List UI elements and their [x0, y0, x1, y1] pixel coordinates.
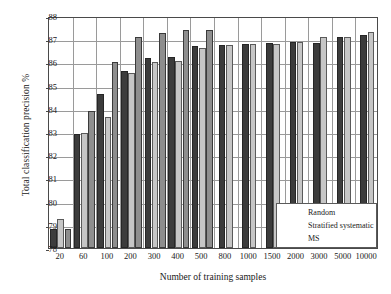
bar-random-60 [74, 134, 81, 248]
x-axis-title: Number of training samples [48, 272, 378, 282]
x-tick-label: 1500 [260, 252, 284, 261]
bar-stratified-systematic-20 [57, 219, 64, 248]
bar-random-400 [168, 57, 175, 248]
bar-stratified-systematic-400 [175, 61, 182, 248]
legend-label-random: Random [308, 209, 335, 217]
legend-item-ms[interactable]: MS [279, 232, 374, 245]
x-tick-label: 10000 [354, 252, 378, 261]
bar-ms-400 [183, 30, 190, 248]
series-2-swatch [279, 234, 305, 243]
y-axis-title: Total classification precision % [21, 35, 31, 235]
gridline-vertical [214, 18, 215, 248]
bar-ms-60 [88, 111, 95, 248]
x-tick-label: 20 [48, 252, 72, 261]
bar-random-800 [219, 45, 226, 248]
legend-label-stratified-systematic: Stratified systematic [308, 222, 374, 230]
gridline-horizontal [49, 88, 377, 89]
x-tick-label: 5000 [331, 252, 355, 261]
y-tick-label: 88 [31, 13, 57, 22]
bar-random-1500 [266, 43, 273, 248]
x-tick-label: 300 [142, 252, 166, 261]
bar-stratified-systematic-1000 [250, 44, 257, 248]
bar-ms-200 [135, 37, 142, 248]
x-tick-label: 200 [119, 252, 143, 261]
chart-legend: Random Stratified systematic MS [276, 203, 377, 248]
bar-stratified-systematic-300 [152, 62, 159, 248]
bar-random-200 [121, 71, 128, 248]
bar-stratified-systematic-800 [226, 45, 233, 248]
chart-figure: Total classification precision % Number … [0, 0, 391, 294]
y-tick-label: 83 [31, 129, 57, 138]
y-tick-label: 80 [31, 199, 57, 208]
gridline-horizontal [49, 41, 377, 42]
legend-item-random[interactable]: Random [279, 206, 374, 219]
legend-label-ms: MS [308, 235, 320, 243]
x-tick-label: 500 [189, 252, 213, 261]
bar-stratified-systematic-100 [105, 117, 112, 248]
y-tick-label: 82 [31, 152, 57, 161]
bar-random-300 [145, 58, 152, 248]
x-tick-label: 100 [95, 252, 119, 261]
x-tick-label: 400 [166, 252, 190, 261]
y-tick-label: 84 [31, 106, 57, 115]
series-1-swatch [279, 221, 305, 230]
bar-ms-500 [206, 30, 213, 248]
gridline-vertical [261, 18, 262, 248]
y-tick-label: 86 [31, 59, 57, 68]
bar-ms-100 [112, 62, 119, 248]
x-tick-label: 1000 [237, 252, 261, 261]
y-tick-label: 85 [31, 83, 57, 92]
bar-ms-20 [65, 229, 72, 248]
bar-stratified-systematic-200 [128, 73, 135, 248]
legend-item-stratified-systematic[interactable]: Stratified systematic [279, 219, 374, 232]
bar-random-500 [192, 46, 199, 248]
bar-ms-300 [159, 33, 166, 248]
series-0-swatch [279, 208, 305, 217]
bar-random-100 [97, 94, 104, 248]
y-tick-label: 87 [31, 36, 57, 45]
x-tick-label: 3000 [307, 252, 331, 261]
x-tick-label: 60 [72, 252, 96, 261]
y-tick-label: 79 [31, 222, 57, 231]
x-tick-label: 2000 [284, 252, 308, 261]
x-tick-label: 800 [213, 252, 237, 261]
y-tick-label: 81 [31, 175, 57, 184]
gridline-horizontal [49, 64, 377, 65]
bar-stratified-systematic-500 [199, 48, 206, 248]
gridline-vertical [238, 18, 239, 248]
bar-stratified-systematic-60 [81, 133, 88, 248]
bar-random-1000 [242, 44, 249, 248]
